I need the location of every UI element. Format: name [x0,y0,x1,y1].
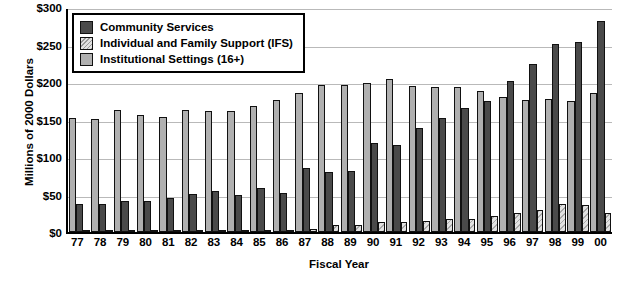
bar-ifs-81 [174,230,181,232]
bar-ifs-96 [514,213,521,232]
bar-cs-98 [552,44,559,232]
bar-group-93 [431,9,454,232]
bar-inst-97 [522,100,529,232]
bar-cs-79 [121,201,128,233]
bar-ifs-85 [265,230,272,232]
bar-inst-92 [409,86,416,232]
bar-ifs-92 [423,221,430,232]
y-tick-label: $200 [20,77,62,89]
x-tick-label: 77 [66,236,89,254]
bar-group-89 [340,9,363,232]
bar-cs-97 [529,64,536,232]
bar-cs-80 [144,201,151,232]
bar-cs-78 [99,204,106,233]
bar-ifs-86 [287,230,294,232]
x-tick-label: 81 [157,236,180,254]
bar-chart: Millions of 2000 Dollars $300$250$200$15… [0,0,622,281]
bar-inst-78 [91,119,98,232]
legend-item-cs: Community Services [80,19,293,35]
bar-ifs-93 [446,219,453,232]
bar-cs-81 [167,198,174,233]
bar-group-91 [385,9,408,232]
bar-cs-89 [348,171,355,232]
bar-cs-87 [303,168,310,233]
bar-ifs-84 [242,230,249,232]
legend-swatch-inst-icon [80,53,93,66]
x-tick-label: 99 [567,236,590,254]
bar-cs-96 [507,81,514,233]
bar-cs-90 [371,143,378,232]
bar-cs-93 [439,118,446,232]
legend-swatch-cs-icon [80,21,93,34]
x-tick-label: 96 [498,236,521,254]
bar-inst-77 [69,118,76,232]
bar-cs-99 [575,42,582,233]
bar-cs-95 [484,101,491,232]
x-tick-label: 92 [407,236,430,254]
bar-cs-83 [212,191,219,232]
y-tick-label: $50 [20,190,62,202]
bar-inst-98 [545,99,552,232]
bar-inst-99 [567,101,574,232]
bar-ifs-88 [333,225,340,232]
bar-inst-93 [431,87,438,232]
bar-ifs-99 [582,205,589,232]
legend: Community ServicesIndividual and Family … [72,13,305,73]
bar-inst-00 [590,93,597,232]
bar-group-97 [521,9,544,232]
x-tick-label: 79 [112,236,135,254]
bar-group-88 [317,9,340,232]
bar-inst-89 [341,85,348,232]
legend-swatch-ifs-icon [80,37,93,50]
y-tick-label: $150 [20,115,62,127]
bar-inst-79 [114,110,121,232]
x-tick-label: 95 [476,236,499,254]
bar-group-90 [363,9,386,232]
bar-inst-83 [205,111,212,232]
legend-label: Individual and Family Support (IFS) [100,37,293,49]
x-tick-label: 82 [180,236,203,254]
x-axis-tick-labels: 7778798081828384858687888990919293949596… [66,236,612,254]
bar-inst-88 [318,85,325,232]
bar-cs-92 [416,128,423,232]
x-tick-label: 87 [294,236,317,254]
bar-cs-85 [257,188,264,232]
x-tick-label: 89 [339,236,362,254]
x-tick-label: 83 [203,236,226,254]
bar-inst-80 [137,115,144,232]
bar-inst-91 [386,79,393,232]
bar-inst-85 [250,106,257,232]
bar-inst-96 [499,97,506,232]
x-tick-label: 90 [362,236,385,254]
bar-ifs-83 [219,230,226,232]
bar-group-98 [544,9,567,232]
bar-inst-87 [295,93,302,233]
x-tick-label: 80 [134,236,157,254]
x-tick-label: 88 [316,236,339,254]
legend-label: Institutional Settings (16+) [100,53,244,65]
bar-cs-77 [76,204,83,232]
y-tick-label: $300 [20,2,62,14]
y-tick-label: $250 [20,40,62,52]
bar-cs-94 [461,108,468,232]
bar-ifs-95 [491,216,498,233]
bar-ifs-82 [197,230,204,232]
x-tick-label: 00 [589,236,612,254]
bar-inst-86 [273,100,280,232]
bar-inst-90 [363,83,370,232]
bar-ifs-97 [537,210,544,232]
y-axis-tick-labels: $300$250$200$150$100$50$0 [14,0,62,281]
bar-cs-82 [189,194,196,232]
bar-cs-91 [393,145,400,232]
bar-ifs-79 [129,230,136,232]
bar-cs-84 [235,195,242,233]
bar-cs-88 [325,172,332,232]
y-tick-label: $100 [20,152,62,164]
legend-label: Community Services [100,21,214,33]
x-tick-label: 78 [89,236,112,254]
bar-group-99 [567,9,590,232]
bar-ifs-00 [605,213,612,233]
bar-inst-84 [227,111,234,233]
x-tick-label: 84 [225,236,248,254]
bar-cs-86 [280,193,287,232]
